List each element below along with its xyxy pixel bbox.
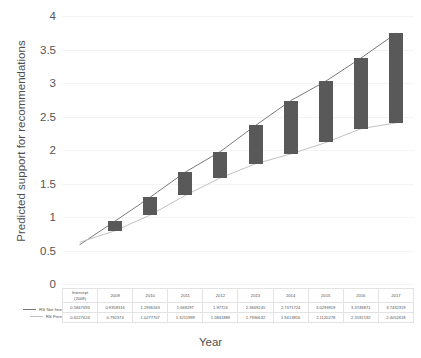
y-axis-title: Predicted support for recommendations	[15, 16, 27, 266]
table-cell: 2.3669245	[238, 303, 273, 313]
table-cell: 0.9359316	[98, 303, 133, 313]
gridline	[62, 284, 414, 285]
table-cell: 2.4052618	[378, 313, 413, 323]
table-cell: 1.2936163	[133, 303, 168, 313]
bar	[108, 221, 122, 231]
table-cell: 3.7432319	[378, 303, 413, 313]
table-cell: 2.1120278	[308, 313, 343, 323]
bar	[389, 33, 403, 123]
table-header-row: Intercept(2008)2009201020112012201320142…	[63, 289, 414, 303]
table-cell: 3.0293919	[308, 303, 343, 313]
table-cell: 0.6227624	[63, 313, 98, 323]
bar	[178, 172, 192, 195]
legend-item-rs-free: RS Free	[4, 313, 62, 320]
y-axis-tick-label: 1.5	[40, 178, 56, 190]
table-column-header: 2015	[308, 289, 343, 303]
legend: RS Not free RS Free	[4, 306, 62, 320]
y-axis-tick-label: 1	[50, 211, 56, 223]
y-axis-tick-label: 3.5	[40, 44, 56, 56]
legend-label: RS Free	[46, 314, 62, 319]
series-line-rs-not-free	[80, 33, 397, 245]
table-cell: 1.669297	[168, 303, 203, 313]
table-column-header: 2016	[343, 289, 378, 303]
legend-swatch-line-icon	[23, 309, 36, 310]
table-column-header: 2009	[98, 289, 133, 303]
legend-swatch-line-icon	[30, 316, 43, 317]
table-cell: 1.5841889	[203, 313, 238, 323]
y-axis-tick-label: 4	[50, 10, 56, 22]
table-cell: 2.3192192	[343, 313, 378, 323]
table-column-header: 2011	[168, 289, 203, 303]
y-axis-tick-label: 0.5	[40, 245, 56, 257]
table-cell: 1.0277707	[133, 313, 168, 323]
y-axis-tick-label: 0	[50, 278, 56, 290]
series-line-rs-free	[80, 123, 397, 242]
bar	[319, 81, 333, 142]
table-column-header: 2013	[238, 289, 273, 303]
data-table-wrap: Intercept(2008)2009201020112012201320142…	[62, 288, 414, 323]
table-column-header: 2012	[203, 289, 238, 303]
plot-area: 00.511.522.533.54	[62, 16, 414, 284]
table-cell: 0.792374	[98, 313, 133, 323]
y-axis-tick-label: 2.5	[40, 111, 56, 123]
trend-lines	[62, 16, 414, 284]
table-cell: 1.97724	[203, 303, 238, 313]
table-cell: 1.9413816	[273, 313, 308, 323]
chart-container: Predicted support for recommendations 00…	[0, 0, 421, 358]
table-cell: 2.7371724	[273, 303, 308, 313]
y-axis-tick-label: 3	[50, 77, 56, 89]
table-column-header: Intercept(2008)	[63, 289, 98, 303]
table-column-header: 2017	[378, 289, 413, 303]
table-row: 0.58476930.93593161.29361631.6692971.977…	[63, 303, 414, 313]
bar	[284, 101, 298, 154]
table-cell: 1.7936632	[238, 313, 273, 323]
legend-item-rs-not-free: RS Not free	[4, 306, 62, 313]
table-cell: 3.3748871	[343, 303, 378, 313]
data-table: Intercept(2008)2009201020112012201320142…	[62, 288, 414, 323]
bar	[249, 125, 263, 163]
x-axis-title: Year	[0, 336, 421, 348]
table-body: 0.58476930.93593161.29361631.6692971.977…	[63, 303, 414, 323]
table-column-header: 2010	[133, 289, 168, 303]
bar	[143, 197, 157, 215]
bar	[213, 152, 227, 178]
y-axis-tick-label: 2	[50, 144, 56, 156]
table-cell: 1.3211999	[168, 313, 203, 323]
table-column-header: 2014	[273, 289, 308, 303]
table-cell: 0.5847693	[63, 303, 98, 313]
table-row: 0.62276240.7923741.02777071.32119991.584…	[63, 313, 414, 323]
legend-label: RS Not free	[39, 307, 62, 312]
bar	[354, 58, 368, 129]
